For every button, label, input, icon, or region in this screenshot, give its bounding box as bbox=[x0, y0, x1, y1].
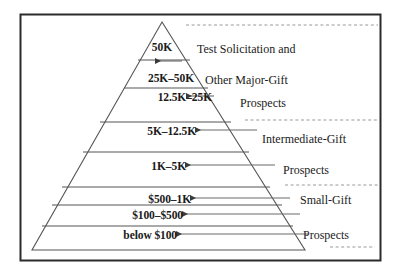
group-label-major-gift-line1: Test Solicitation and bbox=[197, 42, 295, 57]
group-label-intermediate-gift-line1: Intermediate-Gift bbox=[262, 132, 346, 147]
tier-label-12-5k-25k: 12.5K–25K bbox=[158, 91, 212, 103]
tier-label-50k: 50K bbox=[152, 41, 172, 53]
group-label-major-gift-line3: Prospects bbox=[240, 96, 286, 111]
tier-label-1k-5k: 1K–5K bbox=[151, 160, 186, 172]
tier-label-25k-50k: 25K–50K bbox=[148, 72, 194, 84]
tier-label-5k-12-5k: 5K–12.5K bbox=[147, 125, 196, 137]
tier-label-below-100: below $100 bbox=[123, 229, 177, 241]
group-label-major-gift-line2: Other Major-Gift bbox=[205, 73, 288, 88]
group-label-intermediate-gift-line2: Prospects bbox=[283, 163, 329, 178]
gift-pyramid-figure: 50K 25K–50K 12.5K–25K 5K–12.5K 1K–5K $50… bbox=[0, 0, 405, 273]
group-label-small-gift-line1: Small-Gift bbox=[300, 193, 351, 208]
group-label-small-gift-line2: Prospects bbox=[303, 228, 349, 243]
tier-label-500-1k: $500–1K bbox=[148, 193, 191, 205]
tier-label-100-500: $100–$500 bbox=[132, 209, 183, 221]
